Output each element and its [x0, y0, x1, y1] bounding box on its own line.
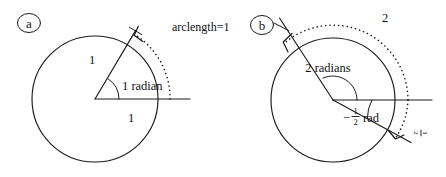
terminal-tip-cap-b	[274, 23, 289, 31]
arclength-label-a: arclength=1	[172, 20, 229, 34]
arclength-negative-numerator-b: 1	[421, 131, 429, 135]
angle-label-positive-b: 2 radians	[305, 61, 351, 75]
angle-label-a: 1 radian	[122, 79, 163, 93]
negative-frac-numerator-b: 1	[353, 106, 357, 116]
arrowhead-positive-b	[283, 34, 292, 53]
angle-arc-positive-b	[323, 76, 357, 100]
panel-b-label: b	[259, 18, 266, 33]
panel-b: b 2 radians − 1 2 rad	[251, 11, 433, 162]
arclength-label-positive-b: 2	[382, 11, 388, 25]
radius-label-slanted-a: 1	[89, 53, 95, 67]
radius-label-horizontal-a: 1	[128, 111, 134, 125]
negative-frac-denominator-b: 2	[353, 117, 357, 127]
panel-a-label-badge: a	[18, 14, 41, 33]
panel-a-label: a	[26, 16, 32, 31]
negative-unit-b: rad	[363, 111, 380, 125]
panel-b-label-badge: b	[251, 16, 274, 35]
arclength-arc-negative-b	[396, 100, 408, 138]
minus-sign-b: −	[343, 111, 350, 125]
arclength-negative-denominator-b: 2	[412, 131, 420, 135]
panel-a: a 1 1 1 radian arclength=1	[18, 14, 230, 163]
radian-diagram: a 1 1 1 radian arclength=1 b	[0, 0, 446, 177]
angle-arc-a	[108, 79, 119, 99]
figure-container: a 1 1 1 radian arclength=1 b	[0, 0, 446, 177]
terminal-tip-cap-a	[130, 27, 142, 34]
arclength-label-negative-b: 1 2	[412, 130, 429, 137]
